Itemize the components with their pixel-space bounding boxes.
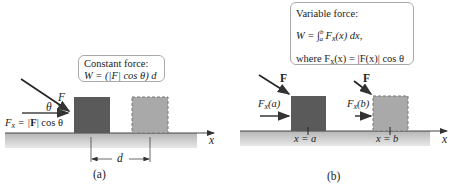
force-label-b: F — [363, 72, 370, 84]
angle-label: θ — [46, 101, 52, 113]
constant-force-box: Constant force: W = (|F| cos θ) d — [78, 55, 165, 82]
force-label-a: F — [280, 72, 287, 84]
axis-label: x — [209, 134, 214, 146]
component-label: Fx = |F| cos θ — [5, 117, 63, 130]
box-integral: W = ∫ba Fx(x) dx, — [296, 23, 408, 49]
component-label-a: Fx(a) — [258, 98, 280, 111]
component-label-b: Fx(b) — [347, 98, 369, 111]
box-title: Constant force: — [84, 58, 159, 70]
position-label-a: x = a — [294, 133, 316, 144]
axis-label: x — [442, 133, 447, 145]
position-label-b: x = b — [376, 133, 398, 144]
caption-a: (a) — [93, 168, 106, 180]
panel-a-constant-force: Constant force: W = (|F| cos θ) d F θ Fx… — [0, 0, 225, 185]
panel-b-variable-force: Variable force: W = ∫ba Fx(x) dx, where … — [225, 0, 451, 185]
block-initial — [74, 97, 110, 133]
ground — [240, 131, 430, 146]
block-at-b — [373, 96, 408, 131]
box-title: Variable force: — [296, 4, 408, 23]
block-at-a — [291, 96, 326, 131]
box-formula: W = (|F| cos θ) d — [84, 70, 159, 82]
panel-a-drawing — [0, 0, 225, 185]
variable-force-box: Variable force: W = ∫ba Fx(x) dx, where … — [290, 2, 414, 65]
force-label: F — [58, 91, 65, 103]
distance-label: d — [117, 152, 123, 164]
ground — [5, 133, 197, 148]
caption-b: (b) — [327, 170, 340, 182]
box-where: where Fx(x) = |F(x)| cos θ — [296, 49, 408, 71]
block-final — [132, 97, 168, 133]
